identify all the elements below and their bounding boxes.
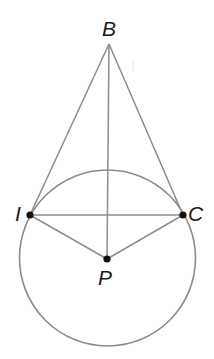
label-p: P	[98, 267, 112, 288]
point-i-dot	[26, 211, 33, 218]
segment-bc	[109, 44, 183, 215]
segment-bp	[107, 44, 109, 259]
segment-bi	[30, 44, 109, 215]
point-c-dot	[179, 211, 186, 218]
geometry-diagram: B I C P	[0, 0, 214, 359]
label-c: C	[188, 203, 203, 224]
diagram-canvas	[0, 0, 214, 359]
label-i: I	[15, 203, 21, 224]
segment-ip	[30, 215, 107, 259]
segment-cp	[107, 215, 183, 259]
point-p-dot	[103, 255, 110, 262]
label-b: B	[102, 18, 116, 39]
